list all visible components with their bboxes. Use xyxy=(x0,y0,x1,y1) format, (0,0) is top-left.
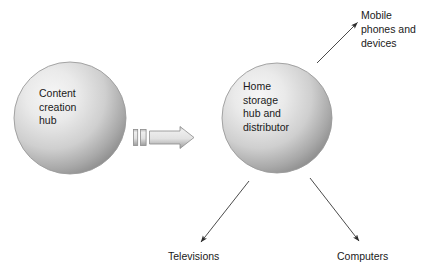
node-home-storage-hub[interactable] xyxy=(222,63,332,173)
endpoint-label-televisions: Televisions xyxy=(168,249,219,263)
block-arrow-content-to-storage[interactable] xyxy=(134,127,195,149)
diagram-canvas: Content creation hub Home storage hub an… xyxy=(0,0,445,271)
connector-to-televisions xyxy=(201,181,249,242)
endpoint-label-computers: Computers xyxy=(337,249,388,263)
endpoint-label-mobile-phones-and-devices: Mobile phones and devices xyxy=(361,8,416,50)
connector-to-computers xyxy=(310,178,359,241)
connector-to-mobile xyxy=(317,23,358,64)
node-content-creation-hub[interactable] xyxy=(14,62,126,174)
